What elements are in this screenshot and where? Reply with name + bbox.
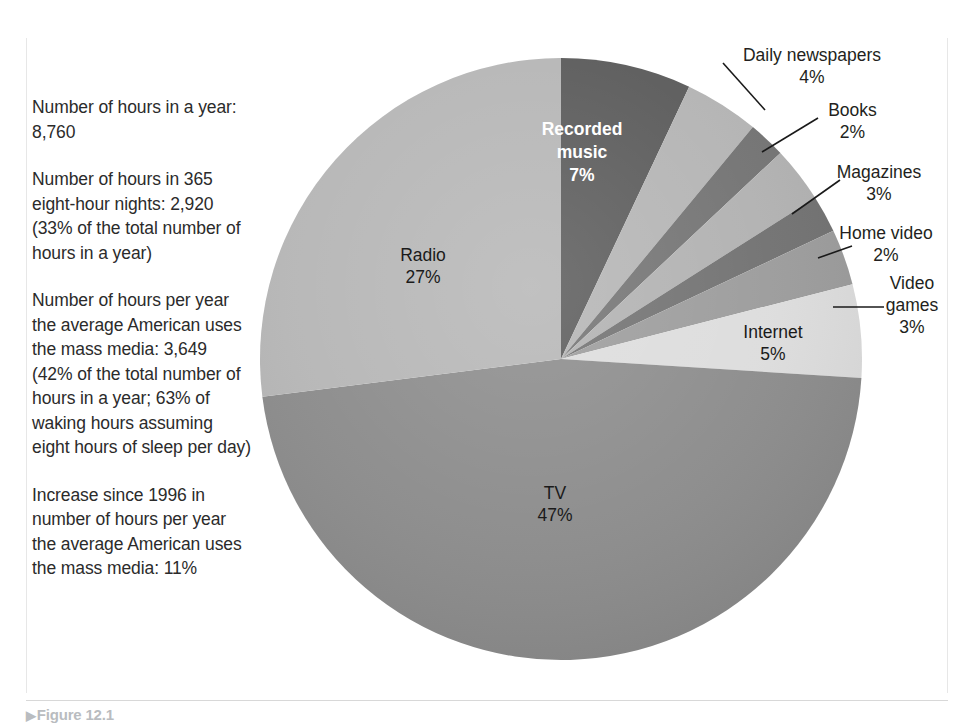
callout-magazines: Magazines 3% xyxy=(810,161,948,205)
callout-label: Video xyxy=(876,272,948,294)
slice-label-text: Radio xyxy=(378,244,468,266)
statistics-panel: Number of hours in a year: 8,760 Number … xyxy=(32,95,252,604)
callout-video-games: Video games 3% xyxy=(876,272,948,338)
stat-paragraph: Number of hours in 365 eight-hour nights… xyxy=(32,167,252,265)
stat-paragraph: Number of hours per year the average Ame… xyxy=(32,288,252,460)
slice-value: 5% xyxy=(718,343,828,365)
caption-triangle-icon: ▶ xyxy=(26,708,36,723)
slice-value: 27% xyxy=(378,266,468,288)
callout-label: Magazines xyxy=(810,161,948,183)
slice-label-line2: music xyxy=(522,141,642,164)
stat-paragraph: Number of hours in a year: 8,760 xyxy=(32,95,252,144)
callout-label-line2: games xyxy=(876,294,948,316)
caption-text: Figure 12.1 xyxy=(37,706,114,723)
callout-value: 3% xyxy=(810,183,948,205)
callout-label: Home video xyxy=(824,222,948,244)
stat-paragraph: Increase since 1996 in number of hours p… xyxy=(32,483,252,581)
slice-label-radio: Radio 27% xyxy=(378,244,468,288)
callout-label: Daily newspapers xyxy=(717,44,907,66)
callout-home-video: Home video 2% xyxy=(824,222,948,266)
callout-value: 2% xyxy=(790,121,915,143)
callout-label: Books xyxy=(790,99,915,121)
slice-label-tv: TV 47% xyxy=(510,482,600,526)
callout-value: 2% xyxy=(824,244,948,266)
slice-label-line1: Recorded xyxy=(522,118,642,141)
slice-value: 7% xyxy=(522,164,642,187)
slice-label-internet: Internet 5% xyxy=(718,321,828,365)
caption-divider xyxy=(26,700,948,701)
callout-daily-newspapers: Daily newspapers 4% xyxy=(717,44,907,88)
figure-caption: ▶Figure 12.1 xyxy=(26,706,114,723)
callout-value: 3% xyxy=(876,316,948,338)
slice-label-recorded-music: Recorded music 7% xyxy=(522,118,642,187)
slice-value: 47% xyxy=(510,504,600,526)
callout-books: Books 2% xyxy=(790,99,915,143)
slice-label-text: Internet xyxy=(718,321,828,343)
slice-label-text: TV xyxy=(510,482,600,504)
callout-value: 4% xyxy=(717,66,907,88)
